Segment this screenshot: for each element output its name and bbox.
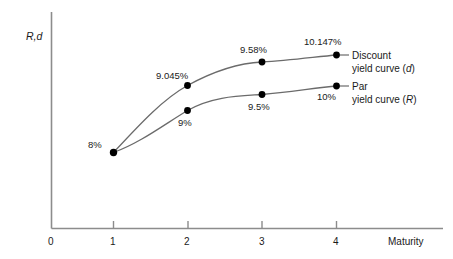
discount-curve-label-suffix: ) <box>411 63 414 74</box>
data-point-par-m2 <box>184 107 191 114</box>
discount-curve-label-line2: yield curve (d) <box>352 62 415 75</box>
data-point-discount-m4 <box>333 52 340 59</box>
data-point-par-m3 <box>259 91 266 98</box>
par-curve-label: Par yield curve (R) <box>352 80 416 106</box>
y-axis-label: R,d <box>26 30 42 42</box>
x-tick-label-3: 3 <box>259 236 265 248</box>
data-point-par-m4 <box>333 83 340 90</box>
discount-yield-curve-line <box>114 55 337 153</box>
point-label-discount-m3: 9.58% <box>240 44 267 56</box>
par-curve-label-line1: Par <box>352 80 416 93</box>
point-label-par-m3: 9.5% <box>248 101 270 113</box>
point-label-par-m2: 9% <box>178 117 192 129</box>
discount-curve-label-line1: Discount <box>352 49 415 62</box>
x-tick-label-2: 2 <box>184 236 190 248</box>
x-axis-ticks <box>114 221 337 229</box>
par-curve-label-line2: yield curve (R) <box>352 93 416 106</box>
point-label-par-m4: 10% <box>317 91 336 103</box>
point-label-discount-m4: 10.147% <box>304 36 342 48</box>
data-point-discount-m2 <box>184 82 191 89</box>
x-tick-label-1: 1 <box>110 236 116 248</box>
par-yield-curve-line <box>114 86 337 153</box>
point-label-discount-m2: 9.045% <box>156 70 188 82</box>
yield-curve-plot <box>0 0 453 259</box>
chart-figure: R,d 0 1 2 3 4 Maturity 8% 9.045% 9.58% 1… <box>0 0 453 259</box>
par-curve-label-prefix: yield curve ( <box>352 94 406 105</box>
x-tick-label-4: 4 <box>333 236 339 248</box>
x-axis-label: Maturity <box>388 236 424 248</box>
par-curve-label-suffix: ) <box>413 94 416 105</box>
discount-curve-label: Discount yield curve (d) <box>352 49 415 75</box>
x-tick-label-0: 0 <box>48 236 54 248</box>
data-point-discount-m3 <box>259 59 266 66</box>
point-label-origin: 8% <box>88 139 102 151</box>
discount-curve-label-prefix: yield curve ( <box>352 63 406 74</box>
data-point-origin-m1 <box>110 149 117 156</box>
